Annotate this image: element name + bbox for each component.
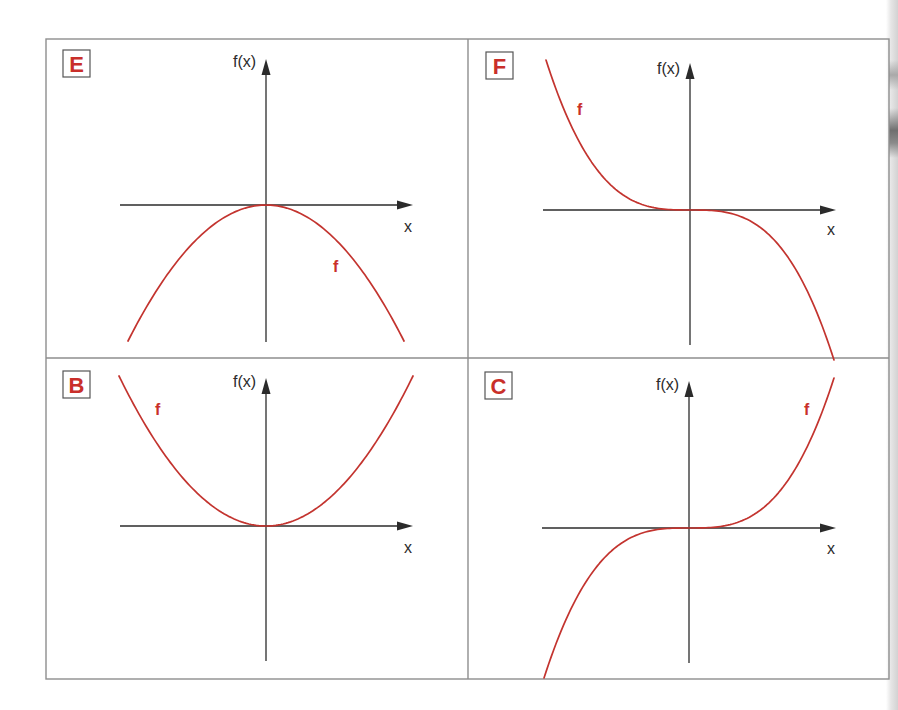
y-axis-arrow-icon <box>262 378 271 394</box>
y-axis-arrow-icon <box>262 59 271 75</box>
function-graphs-figure: Ef(x)xf Ff(x)xf Bf(x)xf Cf(x)xf <box>0 0 898 710</box>
y-axis-label: f(x) <box>233 53 256 70</box>
x-axis-label: x <box>404 539 412 556</box>
panel-label: F <box>493 54 506 79</box>
curve-label: f <box>577 101 583 118</box>
x-axis-arrow-icon <box>397 201 413 210</box>
figure-frame <box>46 39 889 679</box>
y-axis-arrow-icon <box>686 63 695 79</box>
x-axis-label: x <box>404 218 412 235</box>
panel-label: C <box>491 374 507 399</box>
x-axis-arrow-icon <box>397 522 413 531</box>
x-axis-label: x <box>827 540 835 557</box>
x-axis-label: x <box>827 221 835 238</box>
curve-label: f <box>804 401 810 418</box>
panel-e: Ef(x)xf <box>63 50 413 342</box>
panel-b: Bf(x)xf <box>63 371 413 661</box>
panel-label: E <box>69 52 84 77</box>
curve-label: f <box>333 258 339 275</box>
panel-c: Cf(x)xf <box>485 372 836 678</box>
curve-label: f <box>155 401 161 418</box>
x-axis-arrow-icon <box>820 524 836 533</box>
y-axis-label: f(x) <box>656 376 679 393</box>
y-axis-label: f(x) <box>657 60 680 77</box>
y-axis-label: f(x) <box>233 373 256 390</box>
panel-f: Ff(x)xf <box>486 52 836 360</box>
y-axis-arrow-icon <box>685 381 694 397</box>
panel-label: B <box>69 373 85 398</box>
x-axis-arrow-icon <box>820 206 836 215</box>
